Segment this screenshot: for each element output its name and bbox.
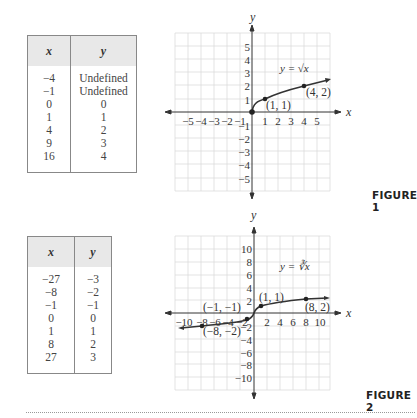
svg-text:10: 10 xyxy=(315,316,327,328)
figure1-graph: y x −5 −4 −3 −2 −1 1 2 3 4 5 5 4 3 2 1 −… xyxy=(0,0,415,200)
svg-text:−4: −4 xyxy=(195,115,207,127)
svg-text:−5: −5 xyxy=(238,173,250,185)
y-axis-label: y xyxy=(250,208,257,222)
svg-text:3: 3 xyxy=(245,67,251,79)
svg-text:5: 5 xyxy=(245,41,251,53)
point-1-1 xyxy=(259,304,264,309)
y-axis-label: y xyxy=(249,10,256,24)
svg-text:5: 5 xyxy=(314,115,320,127)
point-label: (1, 1) xyxy=(266,99,291,112)
svg-text:−10: −10 xyxy=(175,316,193,328)
svg-text:10: 10 xyxy=(241,243,253,255)
svg-text:4: 4 xyxy=(245,54,251,66)
svg-text:3: 3 xyxy=(288,115,294,127)
point-label: (8, 2) xyxy=(305,301,330,314)
svg-text:−1: −1 xyxy=(238,120,250,132)
point-label: (4, 2) xyxy=(306,86,331,99)
svg-text:−2: −2 xyxy=(238,133,250,145)
svg-text:−2: −2 xyxy=(240,321,252,333)
equation-label: y = ∛x xyxy=(279,259,310,272)
axes xyxy=(165,227,341,399)
svg-text:−3: −3 xyxy=(238,146,250,158)
x-axis-label: x xyxy=(345,105,352,119)
point-label: (−1, −1) xyxy=(203,301,241,314)
svg-text:−8: −8 xyxy=(240,359,252,371)
svg-text:4: 4 xyxy=(247,282,253,294)
svg-text:6: 6 xyxy=(247,269,253,281)
x-axis-label: x xyxy=(345,306,352,320)
svg-text:−10: −10 xyxy=(235,372,253,384)
point-label: (1, 1) xyxy=(259,291,284,304)
svg-text:6: 6 xyxy=(290,316,296,328)
svg-text:−4: −4 xyxy=(240,334,252,346)
figure2-caption: FIGURE 2 xyxy=(366,389,415,413)
point-origin xyxy=(249,109,255,115)
svg-text:−6: −6 xyxy=(240,347,252,359)
svg-text:8: 8 xyxy=(303,316,309,328)
svg-text:−2: −2 xyxy=(221,115,233,127)
svg-text:4: 4 xyxy=(301,115,307,127)
svg-text:8: 8 xyxy=(247,256,253,268)
point-label: (−8, −2) xyxy=(203,325,241,338)
svg-text:1: 1 xyxy=(262,115,268,127)
svg-text:4: 4 xyxy=(277,316,283,328)
equation-label: y = √x xyxy=(279,62,309,74)
svg-text:2: 2 xyxy=(245,80,251,92)
svg-text:1: 1 xyxy=(245,94,251,106)
svg-text:2: 2 xyxy=(275,115,281,127)
point-neg1-neg1 xyxy=(245,317,250,322)
svg-text:2: 2 xyxy=(264,316,270,328)
svg-text:2: 2 xyxy=(247,295,253,307)
svg-text:−4: −4 xyxy=(238,159,250,171)
svg-text:−5: −5 xyxy=(182,115,194,127)
figure2-graph: y x −10 −8 −6 −4 −2 2 4 6 8 10 10 8 6 4 … xyxy=(0,200,415,410)
divider xyxy=(26,412,415,413)
svg-text:−3: −3 xyxy=(208,115,220,127)
